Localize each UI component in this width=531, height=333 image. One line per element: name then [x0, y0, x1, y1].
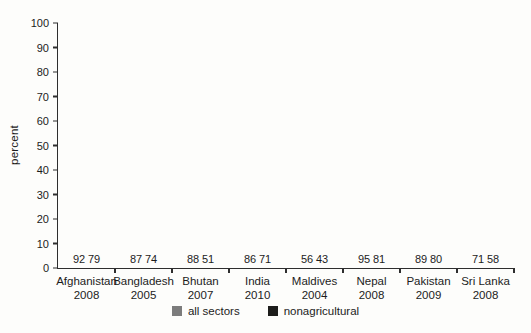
y-tick-dash — [53, 218, 58, 220]
x-category-label: Afghanistan2008 — [56, 274, 117, 302]
y-tick-label: 100 — [31, 17, 49, 30]
y-tick-dash — [53, 71, 58, 73]
x-category-label: India2010 — [245, 274, 271, 302]
y-tick: 0 — [2, 262, 58, 275]
bar-value-label: 95 — [358, 253, 370, 265]
legend-item-nonagricultural: nonagricultural — [268, 305, 359, 317]
x-category-year: 2004 — [292, 288, 337, 302]
bar-group: 9279Afghanistan2008 — [58, 23, 115, 268]
y-tick-label: 40 — [37, 164, 49, 177]
x-axis-tick — [456, 268, 458, 273]
x-category-year: 2008 — [356, 288, 386, 302]
bar-value-label: 71 — [472, 253, 484, 265]
y-tick-label: 10 — [37, 237, 49, 250]
x-category-label: Pakistan2009 — [406, 274, 450, 302]
y-tick-dash — [53, 22, 58, 24]
x-category-label: Sri Lanka2008 — [461, 274, 510, 302]
plot-area: 9279Afghanistan20088774Bangladesh2005885… — [57, 23, 514, 269]
y-tick-label: 20 — [37, 213, 49, 226]
x-category-year: 2008 — [56, 288, 117, 302]
bar-group: 8980Pakistan2009 — [400, 23, 457, 268]
x-category-country: Afghanistan — [56, 274, 117, 288]
y-tick-dash — [53, 145, 58, 147]
y-tick-dash — [53, 169, 58, 171]
bar-groups: 9279Afghanistan20088774Bangladesh2005885… — [58, 23, 514, 268]
x-category-year: 2005 — [113, 288, 174, 302]
y-tick-label: 50 — [37, 139, 49, 152]
x-category-label: Bhutan2007 — [182, 274, 218, 302]
bar-group: 8671India2010 — [229, 23, 286, 268]
y-tick: 10 — [2, 237, 58, 250]
x-category-country: India — [245, 274, 271, 288]
bar-value-label: 81 — [373, 253, 385, 265]
bar-value-label: 80 — [430, 253, 442, 265]
x-axis-tick — [399, 268, 401, 273]
x-category-year: 2008 — [461, 288, 510, 302]
y-tick: 40 — [2, 164, 58, 177]
bar-group: 8774Bangladesh2005 — [115, 23, 172, 268]
y-tick-dash — [53, 96, 58, 98]
bar-group: 7158Sri Lanka2008 — [457, 23, 514, 268]
y-tick: 100 — [2, 17, 58, 30]
bar-value-label: 74 — [145, 253, 157, 265]
legend-label-nonagricultural: nonagricultural — [284, 305, 359, 317]
x-category-year: 2010 — [245, 288, 271, 302]
x-category-country: Bhutan — [182, 274, 218, 288]
x-category-country: Maldives — [292, 274, 337, 288]
x-axis-tick — [342, 268, 344, 273]
bar-value-label: 86 — [244, 253, 256, 265]
x-category-year: 2007 — [182, 288, 218, 302]
bar-value-label: 58 — [487, 253, 499, 265]
y-tick-label: 80 — [37, 66, 49, 79]
x-axis-tick — [114, 268, 116, 273]
x-category-year: 2009 — [406, 288, 450, 302]
y-tick-dash — [53, 120, 58, 122]
bar-value-label: 71 — [259, 253, 271, 265]
bar-value-label: 92 — [73, 253, 85, 265]
y-tick-label: 90 — [37, 41, 49, 54]
y-tick-dash — [53, 47, 58, 49]
y-tick-label: 30 — [37, 188, 49, 201]
bar-value-label: 51 — [202, 253, 214, 265]
bar-value-label: 56 — [301, 253, 313, 265]
bar-value-label: 79 — [88, 253, 100, 265]
y-tick-label: 0 — [43, 262, 49, 275]
bar-chart-figure: percent 9279Afghanistan20088774Banglades… — [0, 0, 531, 333]
legend-label-all-sectors: all sectors — [188, 305, 240, 317]
bar-value-label: 89 — [415, 253, 427, 265]
y-tick-dash — [53, 194, 58, 196]
y-tick: 60 — [2, 115, 58, 128]
bar-value-label: 88 — [187, 253, 199, 265]
x-axis-tick — [171, 268, 173, 273]
x-category-country: Sri Lanka — [461, 274, 510, 288]
bar-group: 5643Maldives2004 — [286, 23, 343, 268]
y-tick: 90 — [2, 41, 58, 54]
y-tick: 70 — [2, 90, 58, 103]
legend: all sectors nonagricultural — [0, 305, 531, 317]
x-axis-tick — [285, 268, 287, 273]
x-category-country: Nepal — [356, 274, 386, 288]
bar-value-label: 87 — [130, 253, 142, 265]
x-category-label: Nepal2008 — [356, 274, 386, 302]
bar-group: 8851Bhutan2007 — [172, 23, 229, 268]
y-tick: 20 — [2, 213, 58, 226]
y-tick-dash — [53, 243, 58, 245]
legend-swatch-nonagricultural — [268, 306, 278, 316]
legend-swatch-all-sectors — [172, 306, 182, 316]
x-axis-tick — [228, 268, 230, 273]
y-tick: 80 — [2, 66, 58, 79]
y-tick: 30 — [2, 188, 58, 201]
bar-group: 9581Nepal2008 — [343, 23, 400, 268]
y-tick-label: 70 — [37, 90, 49, 103]
legend-item-all-sectors: all sectors — [172, 305, 240, 317]
x-category-label: Bangladesh2005 — [113, 274, 174, 302]
y-tick-dash — [53, 267, 58, 269]
bar-value-label: 43 — [316, 253, 328, 265]
y-tick: 50 — [2, 139, 58, 152]
x-axis-tick — [513, 268, 515, 273]
y-tick-label: 60 — [37, 115, 49, 128]
x-category-country: Pakistan — [406, 274, 450, 288]
x-category-country: Bangladesh — [113, 274, 174, 288]
x-category-label: Maldives2004 — [292, 274, 337, 302]
